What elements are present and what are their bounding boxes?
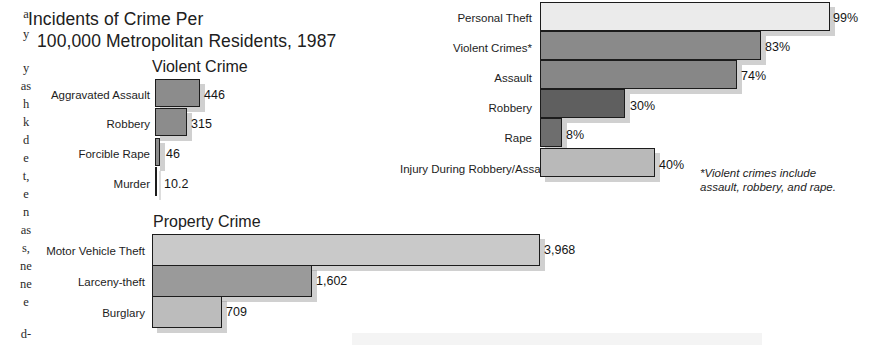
bar-value-personal-theft: 99% [833, 11, 858, 25]
gutter-fragment: n [13, 206, 39, 219]
footnote-line-1: *Violent crimes include [700, 167, 865, 181]
gutter-fragment: d [13, 134, 39, 147]
bar-personal-theft [540, 2, 830, 31]
bar-aggravated-assault [155, 79, 200, 107]
bar-label-robbery-pct: Robbery [400, 102, 532, 115]
gutter-fragment: as [13, 224, 39, 237]
gutter-text-column: a y y as h k d e t, e n as s, ne ne e d- [0, 0, 26, 345]
footnote: *Violent crimes include assault, robbery… [700, 167, 865, 194]
bar-value-murder: 10.2 [164, 177, 188, 191]
bar-violent-crimes [540, 31, 761, 60]
figure-title-line-2: 100,000 Metropolitan Residents, 1987 [28, 30, 368, 52]
bar-label-rape-pct: Rape [400, 132, 532, 145]
bar-label-personal-theft: Personal Theft [400, 12, 532, 25]
bar-robbery [155, 108, 187, 136]
bar-value-rape-pct: 8% [566, 128, 584, 142]
bar-label-robbery: Robbery [20, 118, 150, 131]
bar-value-forcible-rape: 46 [166, 147, 180, 161]
bar-label-murder: Murder [20, 178, 150, 191]
bar-label-violent-crimes: Violent Crimes* [400, 42, 532, 55]
bar-label-forcible-rape: Forcible Rape [20, 148, 150, 161]
bar-larceny-theft [152, 265, 312, 297]
bar-forcible-rape [155, 138, 160, 166]
bar-assault [540, 60, 737, 89]
bar-value-injury-during-robbery-assault: 40% [659, 158, 684, 172]
bar-label-burglary: Burglary [10, 307, 145, 320]
bar-burglary [152, 296, 222, 328]
violent-crime-chart-title: Violent Crime [152, 58, 248, 76]
property-crime-chart-title: Property Crime [153, 213, 261, 231]
bar-value-robbery: 315 [191, 117, 212, 131]
bar-value-robbery-pct: 30% [630, 99, 655, 113]
gutter-fragment: ne [13, 260, 39, 273]
footnote-line-2: assault, robbery, and rape. [700, 181, 865, 195]
bar-value-assault: 74% [741, 69, 766, 83]
bar-injury-during-robbery-assault [540, 148, 655, 177]
bottom-band [352, 333, 762, 345]
bar-value-larceny-theft: 1,602 [316, 274, 347, 288]
bar-value-violent-crimes: 83% [765, 40, 790, 54]
bar-value-burglary: 709 [226, 305, 247, 319]
chart-page: a y y as h k d e t, e n as s, ne ne e d-… [0, 0, 871, 345]
figure-title-line-1: Incidents of Crime Per [28, 8, 368, 30]
bar-label-injury-during-robbery-assault: Injury During Robbery/Assault [400, 163, 532, 176]
figure-title: Incidents of Crime Per 100,000 Metropoli… [28, 8, 368, 52]
bar-motor-vehicle-theft [152, 234, 540, 266]
bar-murder [155, 167, 157, 196]
bar-value-motor-vehicle-theft: 3,968 [544, 243, 575, 257]
gutter-fragment: d- [13, 328, 39, 341]
bar-label-aggravated-assault: Aggravated Assault [20, 89, 150, 102]
bar-robbery-pct [540, 89, 625, 118]
bar-label-larceny-theft: Larceny-theft [10, 276, 145, 289]
bar-rape-pct [540, 118, 562, 147]
bar-label-assault: Assault [400, 72, 532, 85]
bar-label-motor-vehicle-theft: Motor Vehicle Theft [10, 245, 145, 258]
bar-value-aggravated-assault: 446 [204, 88, 225, 102]
gutter-fragment: y [13, 62, 39, 75]
